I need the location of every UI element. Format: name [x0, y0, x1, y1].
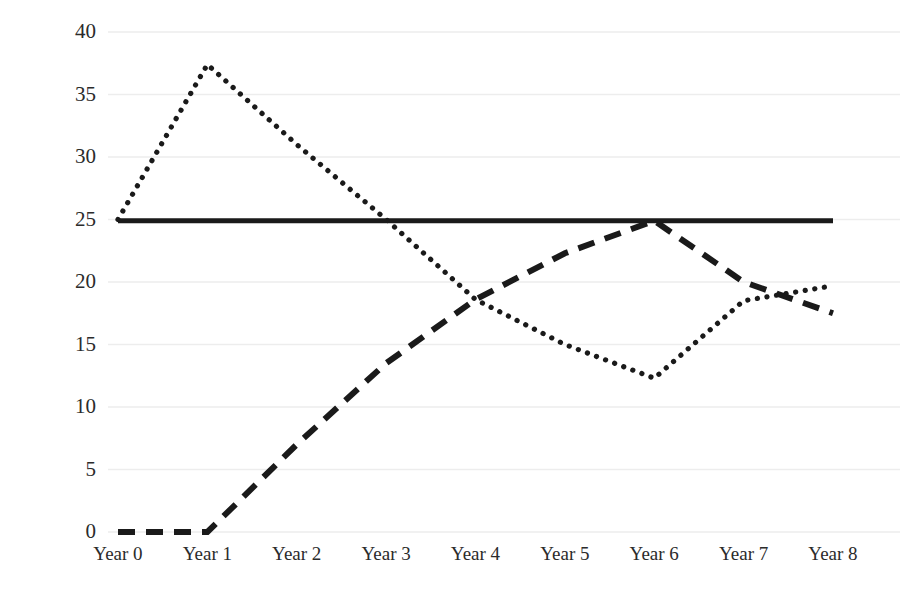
y-axis-tick-label: 5	[50, 459, 96, 480]
x-axis-tick-label: Year 3	[336, 544, 436, 563]
x-axis-tick-label: Year 7	[694, 544, 794, 563]
x-axis-tick-label: Year 6	[604, 544, 704, 563]
x-axis-tick-label: Year 4	[426, 544, 526, 563]
x-axis-tick-label: Year 8	[783, 544, 883, 563]
y-axis-tick-label: 35	[50, 84, 96, 105]
y-axis-tick-label: 40	[50, 21, 96, 42]
x-axis-tick-label: Year 2	[247, 544, 347, 563]
x-axis-tick-label: Year 1	[157, 544, 257, 563]
y-axis-tick-label: 20	[50, 271, 96, 292]
data-series	[118, 65, 833, 533]
chart-plot-area	[0, 0, 918, 597]
x-axis-tick-label: Year 0	[68, 544, 168, 563]
y-axis-tick-label: 10	[50, 396, 96, 417]
series-line-dashed-series	[118, 221, 833, 532]
y-axis-tick-label: 0	[50, 521, 96, 542]
y-axis-tick-label: 30	[50, 146, 96, 167]
line-chart: 0510152025303540 Year 0Year 1Year 2Year …	[0, 0, 918, 597]
y-axis-tick-label: 15	[50, 334, 96, 355]
y-axis-tick-label: 25	[50, 209, 96, 230]
x-axis-tick-label: Year 5	[515, 544, 615, 563]
